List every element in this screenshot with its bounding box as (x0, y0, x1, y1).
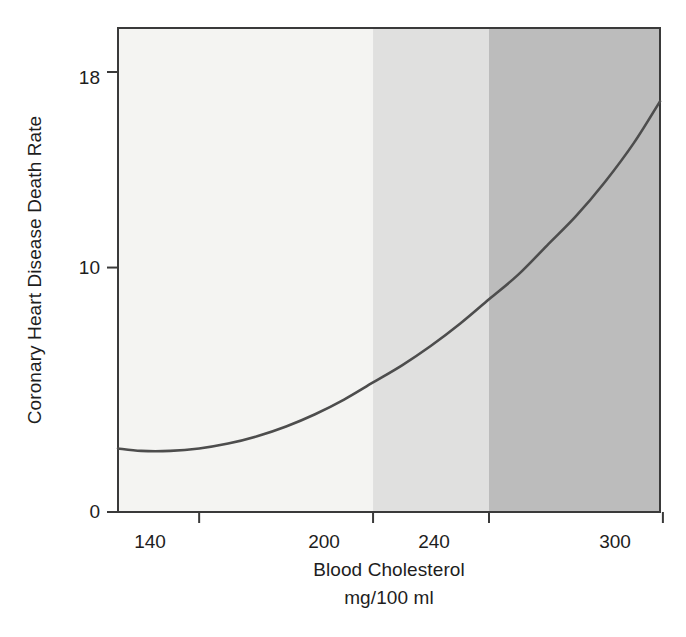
band-borderline-high (373, 28, 489, 512)
chart-figure: Coronary Heart Disease Death Rate 18 10 … (0, 0, 686, 637)
band-high (489, 28, 660, 512)
plot-area (0, 0, 686, 637)
shaded-bands (118, 28, 660, 512)
